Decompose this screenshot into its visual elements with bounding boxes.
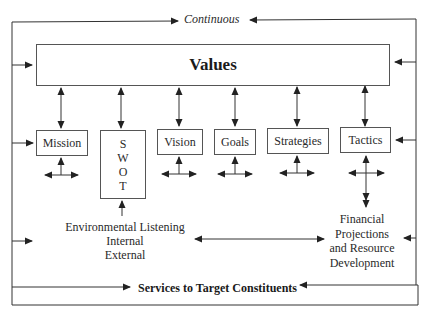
swot-letter-t: T <box>119 179 126 193</box>
swot-letter-w: W <box>117 151 128 165</box>
financial-line-2: Projections <box>322 227 402 242</box>
vision-box: Vision <box>157 129 203 155</box>
environmental-line-3: External <box>60 248 190 262</box>
swot-letter-o: O <box>119 165 128 179</box>
strategic-planning-diagram: Continuous Values Mission S W O T Vision… <box>0 0 427 312</box>
environmental-line-1: Environmental Listening <box>60 220 190 234</box>
swot-letter-s: S <box>120 137 127 151</box>
strategies-box: Strategies <box>267 128 329 154</box>
tactics-box: Tactics <box>340 127 391 153</box>
financial-line-1: Financial <box>322 212 402 227</box>
continuous-label: Continuous <box>184 12 239 27</box>
swot-box: S W O T <box>100 130 146 199</box>
financial-line-4: Development <box>322 256 402 271</box>
mission-box: Mission <box>36 130 88 156</box>
values-box: Values <box>36 44 390 86</box>
financial-line-3: and Resource <box>322 241 402 256</box>
environmental-line-2: Internal <box>60 234 190 248</box>
financial-projections-label: Financial Projections and Resource Devel… <box>322 212 402 270</box>
services-to-target-constituents-label: Services to Target Constituents <box>138 281 297 296</box>
goals-box: Goals <box>214 129 256 155</box>
environmental-listening-label: Environmental Listening Internal Externa… <box>60 220 190 262</box>
